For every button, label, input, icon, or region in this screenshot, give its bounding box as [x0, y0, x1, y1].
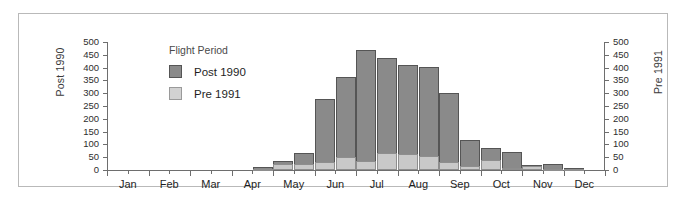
chart-screenshot: Post 1990 Pre 1991 500450400350300250200…: [0, 0, 688, 200]
legend-swatch-icon: [169, 87, 182, 100]
bar-pre-1991: [543, 169, 563, 171]
bar-pre-1991: [398, 154, 418, 170]
x-tick-major: [315, 171, 316, 176]
x-tick-major: [107, 171, 108, 176]
y-tick-label-left: 150: [65, 127, 99, 136]
y-tick-label-right: 500: [613, 37, 647, 46]
y-tick-label-right: 400: [613, 63, 647, 72]
x-tick-major: [439, 171, 440, 176]
bar-pre-1991: [294, 164, 314, 170]
y-tick-label-left: 400: [65, 63, 99, 72]
x-tick-major: [564, 171, 565, 176]
x-tick-major: [232, 171, 233, 176]
y-tick-left: [103, 93, 107, 94]
y-tick-label-left: 350: [65, 75, 99, 84]
bar-pre-1991: [502, 168, 522, 170]
legend-title: Flight Period: [169, 44, 246, 56]
legend-label: Post 1990: [194, 66, 246, 78]
legend-label: Pre 1991: [194, 88, 241, 100]
y-tick-left: [103, 144, 107, 145]
y-tick-left: [103, 42, 107, 43]
y-tick-right: [605, 119, 609, 120]
x-tick-minor: [418, 171, 419, 174]
bar-pre-1991: [377, 153, 397, 170]
y-tick-left: [103, 132, 107, 133]
bar-pre-1991: [564, 169, 584, 171]
y-tick-right: [605, 93, 609, 94]
y-tick-left: [103, 106, 107, 107]
x-tick-minor: [252, 171, 253, 174]
bar-post-1990: [502, 152, 522, 170]
y-tick-label-right: 350: [613, 75, 647, 84]
legend-entry: Pre 1991: [169, 87, 246, 100]
y-tick-left: [103, 157, 107, 158]
y-tick-label-left: 50: [65, 152, 99, 161]
x-tick-minor: [543, 171, 544, 174]
y-tick-label-left: 500: [65, 37, 99, 46]
y-tick-right: [605, 157, 609, 158]
x-tick-minor: [294, 171, 295, 174]
x-tick-major: [190, 171, 191, 176]
x-tick-major: [149, 171, 150, 176]
y-tick-label-left: 250: [65, 101, 99, 110]
y-tick-right: [605, 42, 609, 43]
bar-post-1990: [356, 50, 376, 170]
legend-entries: Post 1990Pre 1991: [169, 65, 246, 100]
x-tick-minor: [584, 171, 585, 174]
x-tick-minor: [335, 171, 336, 174]
y-tick-left: [103, 55, 107, 56]
x-tick-minor: [128, 171, 129, 174]
y-tick-label-left: 200: [65, 114, 99, 123]
bar-pre-1991: [460, 166, 480, 170]
x-tick-major: [273, 171, 274, 176]
x-tick-minor: [211, 171, 212, 174]
x-tick-major: [481, 171, 482, 176]
legend-swatch-icon: [169, 65, 182, 78]
bar-pre-1991: [356, 161, 376, 170]
y-tick-right: [605, 132, 609, 133]
y-tick-label-right: 50: [613, 152, 647, 161]
y-tick-label-left: 0: [65, 165, 99, 174]
y-tick-left: [103, 68, 107, 69]
bar-pre-1991: [439, 162, 459, 170]
y-tick-label-left: 450: [65, 50, 99, 59]
y-tick-right: [605, 68, 609, 69]
x-tick-minor: [501, 171, 502, 174]
y-tick-left: [103, 119, 107, 120]
x-tick-minor: [460, 171, 461, 174]
y-tick-label-right: 450: [613, 50, 647, 59]
bar-post-1990: [419, 67, 439, 170]
chart-frame: Post 1990 Pre 1991 500450400350300250200…: [18, 13, 668, 187]
y-tick-label-right: 100: [613, 139, 647, 148]
y-tick-left: [103, 80, 107, 81]
y-tick-label-right: 150: [613, 127, 647, 136]
x-axis-month-label: Dec: [554, 178, 614, 190]
bar-pre-1991: [419, 156, 439, 170]
x-tick-major: [605, 171, 606, 176]
y-tick-right: [605, 106, 609, 107]
bar-pre-1991: [315, 162, 335, 170]
legend: Flight Period Post 1990Pre 1991: [169, 44, 246, 109]
x-tick-major: [398, 171, 399, 176]
y-tick-right: [605, 80, 609, 81]
x-tick-major: [356, 171, 357, 176]
bar-post-1990: [315, 99, 335, 170]
x-tick-minor: [169, 171, 170, 174]
x-tick-minor: [377, 171, 378, 174]
y-tick-label-left: 100: [65, 139, 99, 148]
y-tick-label-right: 200: [613, 114, 647, 123]
bar-post-1990: [439, 93, 459, 170]
bar-pre-1991: [253, 169, 273, 171]
y-axis-left-line: [107, 42, 108, 170]
y-tick-right: [605, 144, 609, 145]
y-tick-label-left: 300: [65, 88, 99, 97]
y-axis-right-title: Pre 1991: [652, 27, 664, 117]
y-tick-right: [605, 55, 609, 56]
bar-pre-1991: [336, 157, 356, 170]
bar-pre-1991: [481, 160, 501, 170]
x-tick-major: [522, 171, 523, 176]
y-tick-label-right: 0: [613, 165, 647, 174]
legend-entry: Post 1990: [169, 65, 246, 78]
bar-pre-1991: [522, 166, 542, 170]
y-tick-label-right: 250: [613, 101, 647, 110]
